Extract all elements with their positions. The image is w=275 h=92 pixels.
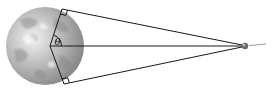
angle-label: θ [55, 36, 61, 47]
observer [242, 43, 266, 49]
tangent-line-top [62, 9, 242, 45]
diagram-canvas: θ [0, 0, 275, 92]
tangent-line-bottom [64, 47, 242, 84]
